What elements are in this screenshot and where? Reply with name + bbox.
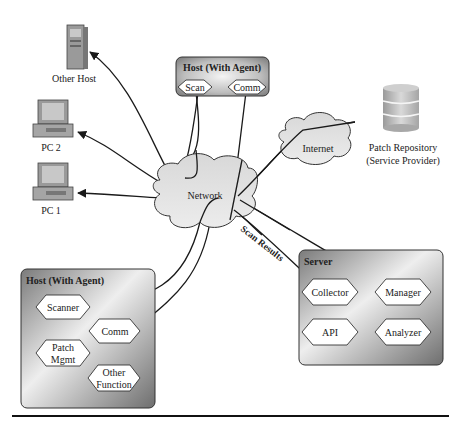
network-label: Network [188, 190, 223, 201]
module-analyzer: Analyzer [375, 319, 431, 345]
patch-repository-node: Patch Repository (Service Provider) [366, 84, 440, 167]
svg-text:Scanner: Scanner [47, 302, 80, 313]
svg-text:API: API [322, 327, 338, 338]
database-icon [383, 84, 419, 132]
edge-network-pc1 [78, 193, 160, 198]
pc2-node: PC 2 [33, 100, 73, 153]
module-api: API [302, 319, 358, 345]
module-other-function: Other Function [88, 365, 140, 391]
module-collector: Collector [302, 279, 358, 305]
module-comm-bottom: Comm [89, 319, 140, 343]
module-scan: Scan [178, 80, 212, 94]
server-title: Server [304, 256, 333, 267]
internet-label: Internet [302, 143, 333, 154]
svg-text:Comm: Comm [101, 326, 128, 337]
other-host-label: Other Host [52, 73, 96, 84]
svg-text:Mgmt: Mgmt [51, 354, 76, 365]
patch-repository-label-line2: (Service Provider) [366, 155, 440, 167]
server-box: Server Collector Manager API Analyzer [299, 250, 443, 365]
module-scanner: Scanner [36, 295, 90, 319]
other-host-node: Other Host [52, 25, 96, 84]
scan-results-label: Scan Results [239, 224, 286, 264]
edge-network-other-host [90, 52, 170, 175]
host-bottom-title: Host (With Agent) [26, 275, 104, 287]
svg-text:Comm: Comm [233, 82, 260, 93]
desktop-pc-icon [33, 163, 73, 200]
pc1-label: PC 1 [41, 205, 61, 216]
module-comm: Comm [228, 80, 266, 94]
internet-cloud: Internet [279, 113, 351, 165]
svg-text:Other: Other [103, 367, 126, 378]
host-top-title: Host (With Agent) [183, 62, 261, 74]
patch-management-diagram: Other Host PC 2 PC 1 Host (With Agent) S… [0, 0, 463, 427]
server-tower-icon [67, 25, 88, 69]
module-patch-mgmt: Patch Mgmt [36, 340, 90, 366]
svg-text:Scan: Scan [185, 82, 204, 93]
svg-text:Analyzer: Analyzer [385, 327, 422, 338]
svg-text:Collector: Collector [311, 287, 349, 298]
svg-text:Function: Function [96, 379, 132, 390]
pc2-label: PC 2 [41, 142, 61, 153]
patch-repository-label-line1: Patch Repository [369, 142, 438, 153]
svg-text:Patch: Patch [52, 342, 74, 353]
host-bottom-box: Host (With Agent) Scanner Comm Patch Mgm… [21, 269, 155, 408]
host-top-box: Host (With Agent) Scan Comm [176, 57, 269, 96]
pc1-node: PC 1 [33, 163, 73, 216]
module-manager: Manager [375, 279, 431, 305]
desktop-pc-icon [33, 100, 73, 137]
svg-text:Manager: Manager [385, 287, 421, 298]
